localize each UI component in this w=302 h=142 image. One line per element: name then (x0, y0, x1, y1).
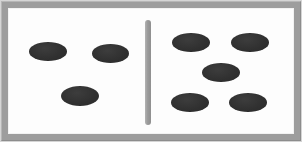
left-dot-2 (92, 44, 129, 63)
center-divider-bar (145, 20, 151, 125)
right-dot-4 (171, 93, 209, 112)
right-dot-1 (172, 33, 210, 52)
right-dot-3 (202, 63, 240, 82)
left-dot-1 (29, 42, 67, 61)
tile-white-field (8, 8, 294, 134)
right-dot-2 (231, 33, 269, 52)
right-dot-5 (229, 93, 267, 112)
left-dot-3 (61, 86, 99, 106)
dot-comparison-tile (0, 0, 302, 142)
